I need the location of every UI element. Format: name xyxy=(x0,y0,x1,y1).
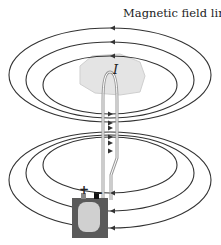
diagram-graphic xyxy=(0,0,221,245)
magnetic-field-diagram: Magnetic field lines I + − xyxy=(0,0,221,245)
diagram-title: Magnetic field lines xyxy=(123,6,221,20)
negative-terminal-label: − xyxy=(93,186,103,200)
positive-terminal-label: + xyxy=(79,183,89,197)
current-label: I xyxy=(113,62,118,77)
